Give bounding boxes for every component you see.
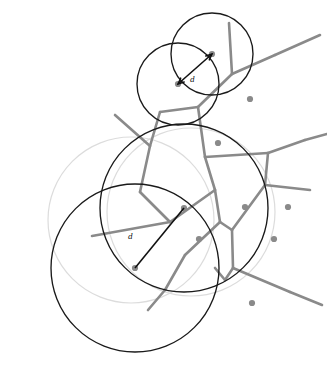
voronoi-edge-3 xyxy=(232,55,275,74)
voronoi-edge-11 xyxy=(265,153,268,185)
site-dot-s11 xyxy=(249,300,255,306)
site-dot-s9 xyxy=(196,236,202,242)
voronoi-figure: dd xyxy=(0,0,327,376)
voronoi-edge-0 xyxy=(229,23,232,74)
voronoi-edge-23 xyxy=(215,268,225,280)
site-dot-s6 xyxy=(242,204,248,210)
voronoi-edge-4 xyxy=(275,35,320,55)
site-dot-s7 xyxy=(285,204,291,210)
voronoi-edge-24 xyxy=(233,268,290,292)
site-dot-s3 xyxy=(247,96,253,102)
voronoi-canvas: dd xyxy=(0,0,327,376)
distance-segment-0 xyxy=(178,54,212,84)
distance-segment-1 xyxy=(135,208,184,268)
voronoi-edge-5 xyxy=(198,107,205,157)
voronoi-edge-19 xyxy=(232,185,265,230)
voronoi-edge-15 xyxy=(140,192,170,222)
distance-label-0: d xyxy=(190,74,195,84)
voronoi-edge-9 xyxy=(268,140,305,153)
voronoi-edge-28 xyxy=(148,290,165,310)
site-dot-s4 xyxy=(215,140,221,146)
voronoi-edge-10 xyxy=(305,134,327,140)
voronoi-edge-25 xyxy=(290,292,322,305)
voronoi-edge-26 xyxy=(185,222,220,255)
voronoi-edge-20 xyxy=(220,222,232,230)
voronoi-edge-8 xyxy=(205,153,268,157)
site-dot-s10 xyxy=(271,236,277,242)
distance-markers-layer: dd xyxy=(128,54,212,268)
voronoi-edge-13 xyxy=(215,190,220,222)
black-circles-layer xyxy=(51,13,268,352)
voronoi-edge-2 xyxy=(160,107,198,112)
voronoi-edge-21 xyxy=(232,230,233,268)
distance-label-1: d xyxy=(128,231,133,241)
faint-circle-c5 xyxy=(48,137,214,303)
